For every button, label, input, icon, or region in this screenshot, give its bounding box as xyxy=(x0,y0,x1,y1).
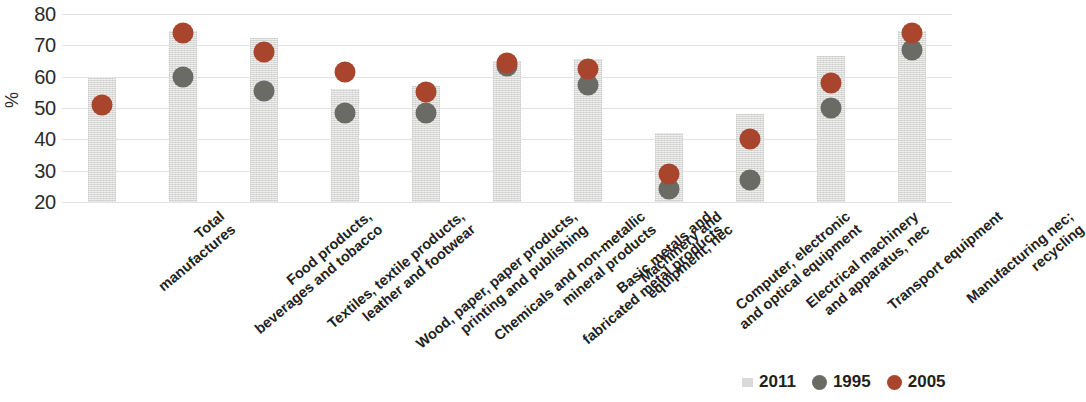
marker-2005 xyxy=(901,22,922,43)
legend-label: 2005 xyxy=(908,372,946,392)
legend-item-1995[interactable]: 1995 xyxy=(812,372,871,392)
y-axis-tick-70: 70 xyxy=(34,34,56,57)
legend-item-2011[interactable]: 2011 xyxy=(742,372,796,392)
marker-2005 xyxy=(577,58,598,79)
marker-2005 xyxy=(739,129,760,150)
legend-swatch-square-icon xyxy=(742,378,753,387)
y-axis-tick-40: 40 xyxy=(34,128,56,151)
marker-2005 xyxy=(173,22,194,43)
legend-swatch-circle-icon xyxy=(812,375,827,390)
y-axis-tick-60: 60 xyxy=(34,65,56,88)
chart-legend: 201119952005 xyxy=(742,372,946,392)
x-axis-label-0: Totalmanufactures xyxy=(145,208,239,294)
x-axis-category-labels: TotalmanufacturesFood products,beverages… xyxy=(0,206,964,356)
y-axis-tick-50: 50 xyxy=(34,97,56,120)
marker-2005 xyxy=(820,72,841,93)
marker-2005 xyxy=(658,163,679,184)
y-axis-tick-labels: 20304050607080 xyxy=(0,14,56,202)
marker-series-2005 xyxy=(62,14,952,202)
marker-2005 xyxy=(92,94,113,115)
marker-2005 xyxy=(335,61,356,82)
legend-item-2005[interactable]: 2005 xyxy=(887,372,946,392)
marker-2005 xyxy=(254,41,275,62)
legend-label: 2011 xyxy=(759,372,796,392)
marker-2005 xyxy=(416,82,437,103)
marker-2005 xyxy=(497,52,518,73)
legend-label: 1995 xyxy=(833,372,871,392)
plot-area xyxy=(62,14,952,202)
y-axis-tick-30: 30 xyxy=(34,159,56,182)
gridline-20 xyxy=(62,202,952,203)
y-axis-tick-80: 80 xyxy=(34,3,56,26)
legend-swatch-circle-icon xyxy=(887,375,902,390)
